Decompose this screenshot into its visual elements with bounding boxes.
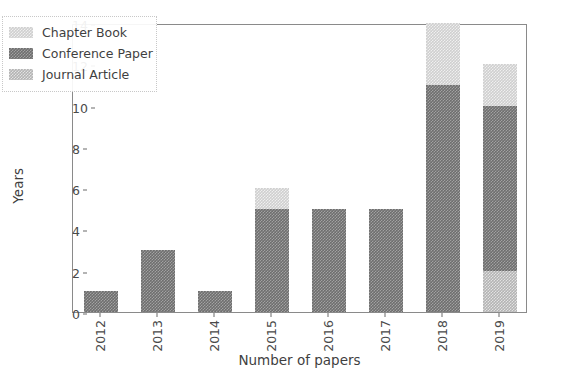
legend-entry: Journal Article	[9, 64, 150, 85]
y-tick-label: 6	[72, 183, 80, 198]
x-tick-2013: 2013	[150, 313, 165, 352]
x-tick-label: 2019	[491, 320, 506, 352]
x-tick-2016: 2016	[320, 313, 335, 352]
chart-legend: Chapter BookConference PaperJournal Arti…	[2, 16, 157, 92]
bar-segment	[255, 209, 289, 312]
y-tick-label: 4	[72, 224, 80, 239]
bar-group	[198, 23, 232, 312]
x-tick-2018: 2018	[434, 313, 449, 352]
bar-group	[483, 23, 517, 312]
x-tick-mark	[214, 313, 215, 317]
x-tick-label: 2016	[320, 320, 335, 352]
bar-segment	[483, 271, 517, 312]
x-tick-mark	[327, 313, 328, 317]
x-tick-mark	[498, 313, 499, 317]
x-tick-2012: 2012	[93, 313, 108, 352]
legend-entry: Conference Paper	[9, 43, 150, 64]
bar-segment	[426, 85, 460, 312]
bar-segment	[426, 23, 460, 85]
bar-group	[426, 23, 460, 312]
y-tick-mark	[83, 190, 87, 191]
y-tick-label: 2	[72, 265, 80, 280]
bar-group	[255, 23, 289, 312]
legend-entry: Chapter Book	[9, 22, 150, 43]
bar-segment	[255, 188, 289, 209]
x-tick-mark	[157, 313, 158, 317]
y-tick-label: 10	[72, 100, 88, 115]
bar-chart-figure: Years 02468101214 2012201320142015201620…	[0, 0, 575, 388]
bar-group	[369, 23, 403, 312]
x-tick-mark	[441, 313, 442, 317]
bar-segment	[483, 64, 517, 105]
x-tick-label: 2014	[207, 320, 222, 352]
legend-swatch-icon	[9, 48, 33, 59]
y-axis-label: Years	[10, 168, 26, 204]
y-tick-label: 8	[72, 141, 80, 156]
bar-group	[312, 23, 346, 312]
x-tick-mark	[100, 313, 101, 317]
x-axis-label: Number of papers	[72, 352, 527, 368]
y-tick-mark	[83, 148, 87, 149]
y-tick-label: 0	[72, 307, 80, 322]
x-tick-label: 2013	[150, 320, 165, 352]
x-tick-mark	[384, 313, 385, 317]
x-tick-mark	[271, 313, 272, 317]
bar-segment	[369, 209, 403, 312]
x-tick-2015: 2015	[264, 313, 279, 352]
x-tick-label: 2018	[434, 320, 449, 352]
bar-segment	[198, 291, 232, 312]
y-tick-mark	[83, 272, 87, 273]
x-tick-2014: 2014	[207, 313, 222, 352]
x-tick-2019: 2019	[491, 313, 506, 352]
y-tick-mark	[83, 231, 87, 232]
legend-label: Conference Paper	[42, 46, 153, 61]
y-tick-mark	[91, 107, 95, 108]
x-tick-2017: 2017	[377, 313, 392, 352]
bar-segment	[312, 209, 346, 312]
x-tick-label: 2017	[377, 320, 392, 352]
legend-swatch-icon	[9, 27, 33, 38]
bar-segment	[141, 250, 175, 312]
legend-label: Chapter Book	[42, 25, 127, 40]
x-tick-label: 2012	[93, 320, 108, 352]
bar-segment	[483, 106, 517, 271]
bar-segment	[84, 291, 118, 312]
y-tick-mark	[83, 314, 87, 315]
legend-label: Journal Article	[42, 67, 129, 82]
legend-swatch-icon	[9, 69, 33, 80]
x-tick-label: 2015	[264, 320, 279, 352]
